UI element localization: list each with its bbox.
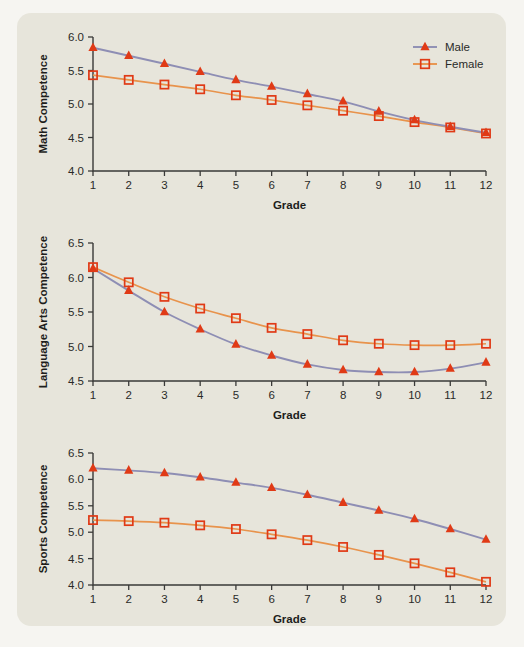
y-tick-label: 6.0 (68, 272, 84, 284)
y-tick-label: 5.0 (68, 98, 84, 110)
chart-language-arts-svg: 4.55.05.56.06.5123456789101112GradeLangu… (17, 215, 506, 427)
y-tick-label: 6.5 (68, 237, 84, 249)
data-point-male (88, 263, 97, 272)
data-point-male (88, 42, 97, 51)
y-tick-label: 4.5 (68, 132, 84, 144)
x-tick-label: 2 (126, 389, 132, 401)
x-tick-label: 12 (480, 389, 493, 401)
y-axis-title: Language Arts Competence (37, 236, 49, 388)
x-tick-label: 1 (90, 179, 96, 191)
x-tick-label: 5 (233, 389, 239, 401)
x-tick-label: 9 (376, 179, 382, 191)
x-tick-label: 1 (90, 389, 96, 401)
y-tick-label: 5.0 (68, 526, 84, 538)
data-point-male (481, 357, 490, 366)
y-tick-label: 6.5 (68, 447, 84, 459)
y-axis-title: Sports Competence (37, 465, 49, 574)
chart-math-competence: 4.04.55.05.56.0123456789101112GradeMath … (17, 17, 506, 217)
chart-math-svg: 4.04.55.05.56.0123456789101112GradeMath … (17, 17, 506, 217)
x-tick-label: 3 (161, 179, 167, 191)
x-tick-label: 5 (233, 179, 239, 191)
x-tick-label: 4 (197, 389, 204, 401)
x-tick-label: 3 (161, 593, 167, 605)
y-tick-label: 4.5 (68, 553, 84, 565)
y-axis-title: Math Competence (37, 54, 49, 153)
x-tick-label: 2 (126, 593, 132, 605)
x-tick-label: 12 (480, 179, 493, 191)
x-tick-label: 8 (340, 389, 346, 401)
series-line-male (93, 269, 486, 373)
figure-root: 4.04.55.05.56.0123456789101112GradeMath … (0, 0, 524, 647)
series-line-male (93, 468, 486, 539)
x-tick-label: 3 (161, 389, 167, 401)
y-tick-label: 6.0 (68, 31, 84, 43)
y-tick-label: 4.0 (68, 579, 84, 591)
legend-label-male: Male (445, 41, 470, 53)
x-tick-label: 6 (268, 389, 274, 401)
x-tick-label: 8 (340, 179, 346, 191)
x-axis-title: Grade (273, 199, 306, 211)
axis-lines (93, 37, 486, 171)
y-tick-label: 6.0 (68, 473, 84, 485)
x-tick-label: 1 (90, 593, 96, 605)
y-tick-label: 5.5 (68, 500, 84, 512)
x-tick-label: 5 (233, 593, 239, 605)
legend-label-female: Female (445, 58, 483, 70)
x-tick-label: 2 (126, 179, 132, 191)
x-tick-label: 7 (304, 179, 310, 191)
x-tick-label: 11 (444, 593, 456, 605)
x-axis-title: Grade (273, 613, 306, 625)
x-axis-title: Grade (273, 409, 306, 421)
x-tick-label: 4 (197, 593, 204, 605)
y-tick-label: 5.0 (68, 341, 84, 353)
series-line-female (93, 267, 486, 345)
chart-sports-svg: 4.04.55.05.56.06.5123456789101112GradeSp… (17, 425, 506, 623)
series-line-female (93, 75, 486, 133)
y-tick-label: 4.0 (68, 165, 84, 177)
y-tick-label: 5.5 (68, 306, 84, 318)
x-tick-label: 11 (444, 179, 456, 191)
x-tick-label: 10 (408, 389, 421, 401)
chart-sports-competence: 4.04.55.05.56.06.5123456789101112GradeSp… (17, 425, 506, 623)
legend-marker-male (420, 42, 429, 51)
x-tick-label: 10 (408, 179, 421, 191)
y-tick-label: 5.5 (68, 65, 84, 77)
x-tick-label: 6 (268, 593, 274, 605)
x-tick-label: 9 (376, 593, 382, 605)
y-tick-label: 4.5 (68, 375, 84, 387)
figure-panel: 4.04.55.05.56.0123456789101112GradeMath … (17, 13, 506, 626)
x-tick-label: 7 (304, 593, 310, 605)
x-tick-label: 11 (444, 389, 456, 401)
series-line-female (93, 520, 486, 582)
x-tick-label: 9 (376, 389, 382, 401)
x-tick-label: 4 (197, 179, 204, 191)
chart-language-arts-competence: 4.55.05.56.06.5123456789101112GradeLangu… (17, 215, 506, 427)
x-tick-label: 6 (268, 179, 274, 191)
x-tick-label: 10 (408, 593, 421, 605)
x-tick-label: 7 (304, 389, 310, 401)
x-tick-label: 8 (340, 593, 346, 605)
x-tick-label: 12 (480, 593, 493, 605)
data-point-male (88, 463, 97, 472)
